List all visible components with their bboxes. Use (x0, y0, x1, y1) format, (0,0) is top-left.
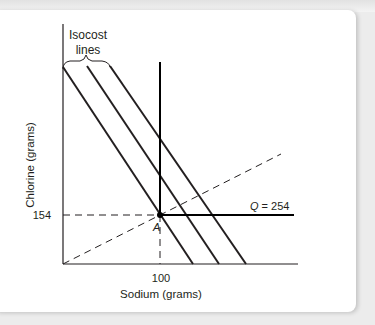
point-a-label: A (152, 221, 160, 233)
x-axis-label: Sodium (grams) (120, 288, 202, 300)
isoquant-label: Q = 254 (250, 200, 289, 212)
x-tick-100: 100 (152, 272, 170, 284)
isocost-isoquant-diagram: Isocost lines Chlorine (grams) Sodium (g… (0, 0, 375, 325)
isoquant-label-value: = 254 (259, 200, 290, 212)
isocost-label-line2: lines (76, 43, 101, 57)
y-tick-154: 154 (33, 209, 51, 221)
isocost-line-1 (63, 67, 193, 264)
isocost-line-3 (110, 66, 246, 264)
y-axis-label: Chlorine (grams) (24, 122, 36, 208)
isocost-line-2 (87, 66, 219, 264)
expansion-path-ray (63, 154, 281, 264)
point-a-marker (157, 212, 163, 218)
isocost-label-line1: Isocost (69, 28, 108, 42)
